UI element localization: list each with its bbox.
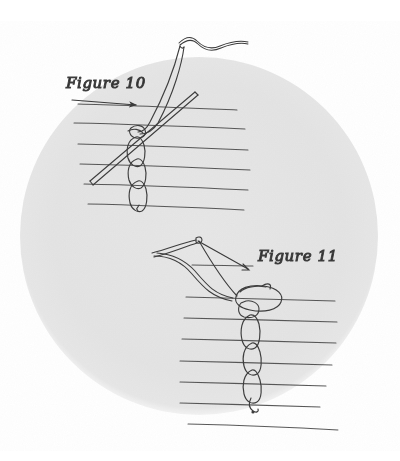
figure-10-label: Figure 10 bbox=[65, 74, 146, 92]
figure-11-label: Figure 11 bbox=[257, 247, 338, 265]
illustration-canvas: Figure 10 bbox=[0, 0, 400, 461]
